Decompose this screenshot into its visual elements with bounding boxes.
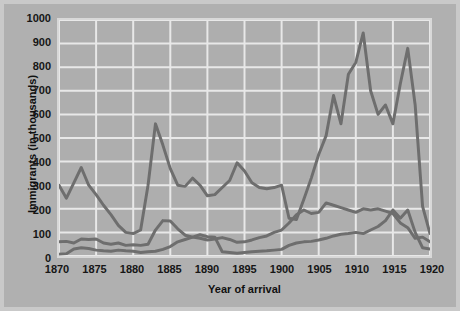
line-series-2 (59, 203, 430, 245)
data-lines (59, 20, 430, 256)
line-series-1 (59, 33, 430, 234)
x-axis-title: Year of arrival (57, 283, 432, 295)
y-axis-title: Immigrants (in thousands) (26, 64, 38, 224)
line-series-3 (59, 210, 430, 254)
chart-figure: 01002003004005006007008009001000 1870187… (0, 0, 460, 311)
plot-area (57, 18, 432, 258)
